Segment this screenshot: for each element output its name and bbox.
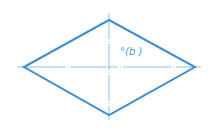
rhombus-diagram [0,0,211,128]
angle-label: °(b ) [120,46,142,57]
